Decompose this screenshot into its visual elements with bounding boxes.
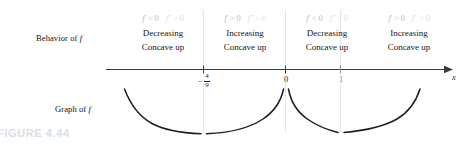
number-line-and-graph bbox=[0, 0, 466, 147]
fraction-minus-sign: − bbox=[198, 77, 203, 86]
figure-caption: FIGURE 4.44 bbox=[0, 127, 70, 139]
fraction-numerator: 4 bbox=[205, 73, 209, 81]
fraction-stack: 4 9 bbox=[204, 73, 210, 89]
tick-label-one: 1 bbox=[334, 74, 348, 84]
graph-branch-1 bbox=[125, 89, 202, 134]
figure-4-44: Behavior of f Graph of f f′ < 0 f″ > 0 f… bbox=[0, 0, 466, 147]
fraction-denominator: 9 bbox=[205, 82, 209, 90]
graph-branch-2 bbox=[207, 89, 284, 134]
figure-canvas bbox=[0, 0, 466, 147]
graph-branch-3 bbox=[289, 89, 339, 133]
graph-branch-4 bbox=[344, 89, 420, 133]
tick-label-zero: 0 bbox=[279, 74, 293, 84]
tick-label-neg-four-ninths: − 4 9 bbox=[193, 73, 215, 89]
axis-variable-label: x bbox=[452, 72, 456, 82]
fraction-neg-four-ninths: − 4 9 bbox=[198, 73, 210, 89]
